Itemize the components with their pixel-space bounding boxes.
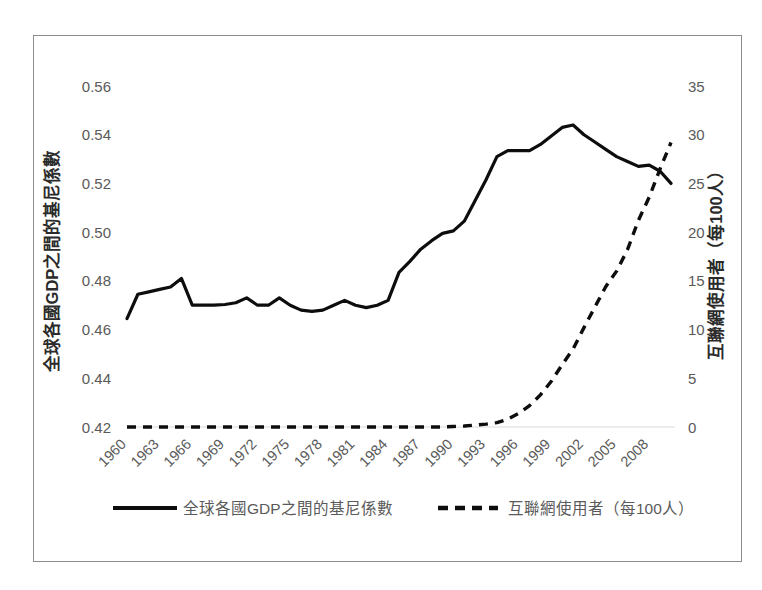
x-axis-tick-label: 1999 bbox=[519, 436, 553, 470]
x-axis-tick-label: 2002 bbox=[552, 436, 586, 470]
y-axis-right-tick-label: 30 bbox=[688, 126, 705, 143]
x-axis-tick-label: 1981 bbox=[323, 436, 357, 470]
x-axis-tick-labels: 1960196319661969197219751978198119841987… bbox=[95, 436, 651, 470]
x-axis-tick-label: 1993 bbox=[454, 436, 488, 470]
y-axis-left-tick-label: 0.52 bbox=[82, 175, 111, 192]
y-axis-left-tick-label: 0.42 bbox=[82, 419, 111, 436]
y-axis-left-tick-label: 0.54 bbox=[82, 126, 111, 143]
y-axis-left-tick-label: 0.48 bbox=[82, 272, 111, 289]
y-axis-right-tick-label: 15 bbox=[688, 272, 705, 289]
chart-legend: 全球各國GDP之間的基尼係數互聯網使用者（每100人） bbox=[113, 500, 694, 517]
y-axis-left-tick-label: 0.56 bbox=[82, 78, 111, 95]
y-axis-left-tick-label: 0.46 bbox=[82, 321, 111, 338]
x-axis-tick-label: 2005 bbox=[585, 436, 619, 470]
y-axis-right-tick-label: 25 bbox=[688, 175, 705, 192]
y-axis-right-tick-label: 0 bbox=[688, 419, 696, 436]
x-axis-tick-label: 1987 bbox=[389, 436, 423, 470]
y-axis-right-title: 互聯網使用者（每100人） bbox=[706, 162, 725, 360]
legend-label-1: 全球各國GDP之間的基尼係數 bbox=[183, 500, 393, 517]
y-axis-right-tick-label: 5 bbox=[688, 370, 696, 387]
y-axis-left-tick-label: 0.44 bbox=[82, 370, 111, 387]
x-axis-tick-label: 1996 bbox=[487, 436, 521, 470]
x-axis-tick-label: 1966 bbox=[160, 436, 194, 470]
legend-label-2: 互聯網使用者（每100人） bbox=[508, 500, 694, 517]
series-line-1 bbox=[127, 125, 671, 319]
x-axis-tick-label: 1969 bbox=[193, 436, 227, 470]
y-axis-right-tick-label: 10 bbox=[688, 321, 705, 338]
y-axis-left-title: 全球各國GDP之間的基尼係數 bbox=[42, 150, 61, 374]
x-axis-tick-label: 1978 bbox=[291, 436, 325, 470]
data-series-group bbox=[127, 125, 671, 427]
x-axis-tick-label: 2008 bbox=[617, 436, 651, 470]
x-axis-tick-label: 1990 bbox=[421, 436, 455, 470]
line-chart: 0.560.540.520.500.480.460.440.42 3530252… bbox=[34, 36, 743, 563]
x-axis-tick-label: 1960 bbox=[95, 436, 129, 470]
y-axis-right-tick-labels: 35302520151050 bbox=[688, 78, 705, 436]
chart-plot-container: 0.560.540.520.500.480.460.440.42 3530252… bbox=[34, 36, 743, 563]
y-axis-left-tick-labels: 0.560.540.520.500.480.460.440.42 bbox=[82, 78, 111, 436]
chart-figure-frame: 0.560.540.520.500.480.460.440.42 3530252… bbox=[33, 35, 742, 562]
y-axis-right-tick-label: 20 bbox=[688, 224, 705, 241]
y-axis-right-tick-label: 35 bbox=[688, 78, 705, 95]
x-axis-tick-label: 1963 bbox=[128, 436, 162, 470]
y-axis-left-tick-label: 0.50 bbox=[82, 224, 111, 241]
x-axis-tick-label: 1984 bbox=[356, 436, 390, 470]
x-axis-tick-label: 1972 bbox=[226, 436, 260, 470]
x-axis-tick-label: 1975 bbox=[258, 436, 292, 470]
series-line-2 bbox=[127, 143, 671, 427]
